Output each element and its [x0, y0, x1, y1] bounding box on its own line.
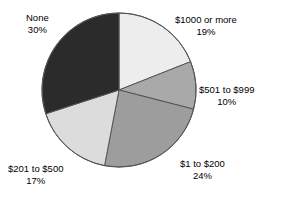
pie-label-501-to-999-text: $501 to $999: [199, 84, 254, 96]
pie-label-1-to-200-text: $1 to $200: [180, 158, 225, 170]
pie-label-201-to-500-percent: 17%: [8, 175, 63, 187]
pie-label-none-percent: 30%: [26, 24, 49, 36]
pie-label-201-to-500: $201 to $500 17%: [8, 163, 63, 187]
pie-label-1000-or-more-text: $1000 or more: [175, 14, 237, 26]
pie-label-none-text: None: [26, 12, 49, 24]
pie-label-501-to-999: $501 to $999 10%: [199, 84, 254, 108]
pie-label-201-to-500-text: $201 to $500: [8, 163, 63, 175]
pie-slice-group: [42, 13, 196, 167]
pie-label-1000-or-more-percent: 19%: [175, 26, 237, 38]
pie-chart: None 30% $1000 or more 19% $501 to $999 …: [0, 0, 282, 201]
pie-label-1-to-200: $1 to $200 24%: [180, 158, 225, 182]
pie-label-none: None 30%: [26, 12, 49, 36]
pie-label-1000-or-more: $1000 or more 19%: [175, 14, 237, 38]
pie-label-1-to-200-percent: 24%: [180, 170, 225, 182]
pie-label-501-to-999-percent: 10%: [199, 96, 254, 108]
